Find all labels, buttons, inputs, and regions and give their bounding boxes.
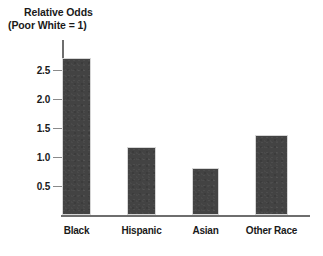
y-tick-label: 2.0 xyxy=(37,94,50,105)
chart-title-line2: (Poor White = 1) xyxy=(8,19,93,32)
y-tick-mark xyxy=(53,70,62,71)
y-tick-mark xyxy=(53,99,62,100)
x-label-other-race: Other Race xyxy=(246,225,297,236)
x-label-asian: Asian xyxy=(192,225,218,236)
y-tick-label: 1.5 xyxy=(37,123,50,134)
x-label-black: Black xyxy=(64,225,90,236)
y-tick-mark xyxy=(53,186,62,187)
y-axis-tick-labels: 0.51.01.52.02.5 xyxy=(20,40,50,216)
bar-black xyxy=(62,58,91,215)
chart-screenshot: Relative Odds (Poor White = 1) 0.51.01.5… xyxy=(0,0,323,256)
plot-area xyxy=(62,40,310,216)
y-tick-mark xyxy=(53,157,62,158)
bar-fill-texture xyxy=(128,148,155,214)
bar-hispanic xyxy=(127,147,156,215)
bar-fill-texture xyxy=(256,136,287,214)
bar-fill-texture xyxy=(63,59,90,214)
x-label-hispanic: Hispanic xyxy=(121,225,161,236)
bar-fill-texture xyxy=(193,169,218,214)
chart-title: Relative Odds (Poor White = 1) xyxy=(8,6,93,32)
y-tick-label: 1.0 xyxy=(37,152,50,163)
x-axis-line xyxy=(61,215,310,217)
y-tick-label: 0.5 xyxy=(37,181,50,192)
bar-asian xyxy=(192,168,219,215)
y-tick-label: 2.5 xyxy=(37,65,50,76)
bar-other-race xyxy=(255,135,288,215)
y-tick-mark xyxy=(53,128,62,129)
chart-title-line1: Relative Odds xyxy=(8,6,93,19)
